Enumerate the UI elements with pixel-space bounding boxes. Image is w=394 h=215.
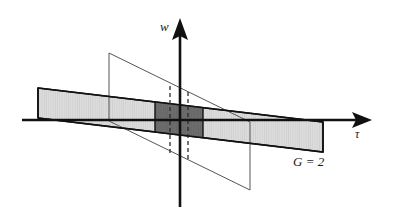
diagram-svg xyxy=(0,0,394,215)
w-axis-label: w xyxy=(160,20,169,33)
figure-canvas: w τ G = 2 xyxy=(0,0,394,215)
tau-axis-label: τ xyxy=(355,128,359,140)
gain-label: G = 2 xyxy=(293,155,324,168)
